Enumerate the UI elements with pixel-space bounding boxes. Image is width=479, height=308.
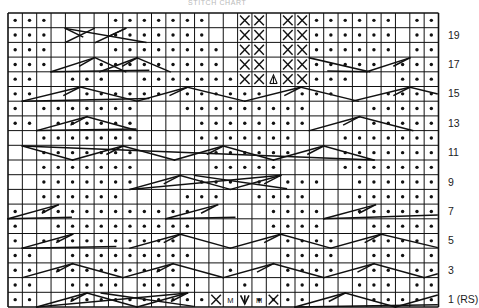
purl-dot (71, 136, 74, 139)
purl-dot (143, 92, 146, 95)
purl-dot (229, 122, 232, 125)
purl-dot (71, 166, 74, 169)
purl-dot (13, 63, 16, 66)
purl-dot (157, 77, 160, 80)
purl-dot (344, 19, 347, 22)
purl-dot (42, 19, 45, 22)
purl-dot (344, 77, 347, 80)
purl-dot (430, 210, 433, 213)
purl-dot (71, 298, 74, 301)
purl-dot (387, 48, 390, 51)
purl-dot (272, 136, 275, 139)
purl-dot (128, 19, 131, 22)
purl-dot (13, 269, 16, 272)
purl-dot (200, 33, 203, 36)
purl-dot (358, 283, 361, 286)
purl-dot (387, 92, 390, 95)
purl-dot (214, 166, 217, 169)
purl-dot (387, 195, 390, 198)
purl-dot (229, 166, 232, 169)
purl-dot (13, 107, 16, 110)
purl-dot (128, 63, 131, 66)
purl-dot (171, 269, 174, 272)
purl-dot (85, 166, 88, 169)
purl-dot (372, 122, 375, 125)
purl-dot (214, 122, 217, 125)
purl-dot (114, 269, 117, 272)
purl-dot (13, 92, 16, 95)
purl-dot (13, 298, 16, 301)
purl-dot (171, 224, 174, 227)
purl-dot (114, 107, 117, 110)
purl-dot (329, 77, 332, 80)
purl-dot (186, 107, 189, 110)
purl-dot (430, 107, 433, 110)
purl-dot (286, 269, 289, 272)
purl-dot (272, 210, 275, 213)
purl-dot (358, 195, 361, 198)
purl-dot (229, 136, 232, 139)
purl-dot (186, 210, 189, 213)
purl-dot (214, 48, 217, 51)
purl-dot (143, 298, 146, 301)
purl-dot (100, 224, 103, 227)
purl-dot (401, 224, 404, 227)
purl-dot (13, 239, 16, 242)
purl-dot (329, 63, 332, 66)
purl-dot (171, 63, 174, 66)
row-number-19: 19 (448, 30, 460, 41)
purl-dot (229, 269, 232, 272)
purl-dot (214, 136, 217, 139)
purl-dot (430, 33, 433, 36)
purl-dot (430, 151, 433, 154)
purl-dot (300, 283, 303, 286)
purl-dot (128, 92, 131, 95)
purl-dot (71, 283, 74, 286)
purl-dot (315, 63, 318, 66)
purl-dot (372, 195, 375, 198)
purl-dot (300, 180, 303, 183)
purl-dot (57, 180, 60, 183)
purl-dot (358, 63, 361, 66)
purl-dot (186, 283, 189, 286)
purl-dot (430, 224, 433, 227)
purl-dot (401, 92, 404, 95)
purl-dot (186, 298, 189, 301)
make-one-symbol: M (256, 296, 262, 305)
purl-dot (42, 195, 45, 198)
purl-dot (272, 224, 275, 227)
purl-dot (300, 210, 303, 213)
purl-dot (430, 136, 433, 139)
purl-dot (143, 63, 146, 66)
purl-dot (272, 166, 275, 169)
purl-dot (128, 210, 131, 213)
purl-dot (157, 254, 160, 257)
purl-dot (100, 298, 103, 301)
purl-dot (387, 224, 390, 227)
purl-dot (430, 122, 433, 125)
purl-dot (415, 77, 418, 80)
purl-dot (300, 298, 303, 301)
purl-dot (229, 77, 232, 80)
purl-dot (28, 48, 31, 51)
purl-dot (401, 122, 404, 125)
purl-dot (300, 224, 303, 227)
purl-dot (229, 107, 232, 110)
purl-dot (13, 77, 16, 80)
purl-dot (57, 195, 60, 198)
purl-dot (186, 92, 189, 95)
purl-dot (372, 298, 375, 301)
purl-dot (315, 77, 318, 80)
grid-lines-group (8, 13, 439, 307)
purl-dot (257, 195, 260, 198)
purl-dot (100, 195, 103, 198)
purl-dot (114, 254, 117, 257)
purl-dot (415, 210, 418, 213)
purl-dot (42, 239, 45, 242)
purl-dot (214, 92, 217, 95)
purl-dot (100, 254, 103, 257)
purl-dot (372, 254, 375, 257)
purl-dot (430, 48, 433, 51)
purl-dot (114, 180, 117, 183)
purl-dot (128, 239, 131, 242)
